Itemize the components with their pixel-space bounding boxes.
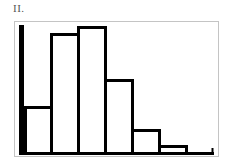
histogram-bar	[79, 28, 106, 154]
histogram-bars	[26, 28, 187, 154]
histogram-bar	[52, 35, 79, 154]
y-axis-bar	[19, 25, 24, 155]
histogram-bar	[26, 108, 52, 154]
histogram-bar	[133, 131, 160, 154]
histogram	[0, 0, 228, 165]
histogram-bar	[106, 81, 133, 154]
